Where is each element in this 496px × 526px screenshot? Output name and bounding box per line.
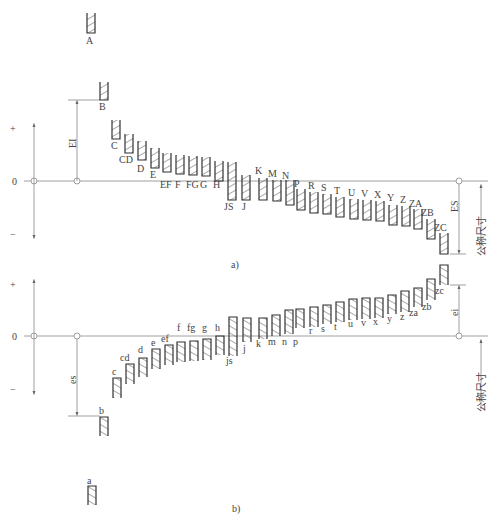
band-hatch	[125, 134, 133, 153]
band-label: ZB	[421, 207, 434, 218]
band-hatch	[203, 339, 211, 360]
tolerance-band-K: K	[255, 165, 267, 200]
nominal-size-label-a: 公称尺寸	[475, 216, 487, 256]
band-label: M	[268, 168, 277, 179]
band-hatch	[402, 206, 410, 226]
band-label: X	[374, 189, 382, 200]
tolerance-band-j: j	[242, 318, 251, 354]
tolerance-band-x: x	[373, 298, 383, 327]
tolerance-band-FG: FG	[186, 156, 199, 190]
band-label: S	[321, 182, 327, 193]
band-hatch	[414, 288, 422, 307]
tolerance-band-u: u	[348, 299, 357, 329]
band-hatch	[242, 175, 250, 200]
tolerance-band-E: E	[150, 148, 159, 180]
plus-sign-a: +	[10, 123, 16, 134]
band-hatch	[243, 318, 251, 342]
tolerance-band-A: A	[86, 13, 95, 46]
band-label: V	[361, 188, 369, 199]
band-hatch	[88, 486, 96, 505]
band-label: J	[242, 201, 246, 212]
band-hatch	[100, 82, 108, 100]
tolerance-band-cd: cd	[120, 352, 134, 384]
band-hatch	[215, 161, 223, 181]
band-label: m	[268, 336, 276, 347]
band-label: za	[409, 307, 418, 318]
tolerance-band-b: b	[99, 405, 108, 436]
plus-sign-b: +	[10, 279, 16, 290]
hole-tolerance-bands: ABCCDDEEFFFGGHJSJKMNPRSTUVXYZZAZBZC	[86, 13, 448, 254]
band-hatch	[375, 298, 383, 318]
tolerance-band-M: M	[268, 168, 281, 201]
band-label: P	[294, 178, 300, 189]
band-hatch	[259, 318, 267, 339]
band-label: U	[348, 187, 356, 198]
tolerance-band-V: V	[361, 188, 371, 220]
band-label: A	[86, 35, 94, 46]
band-label: k	[256, 338, 261, 349]
tolerance-band-D: D	[137, 141, 146, 174]
band-hatch	[349, 299, 357, 320]
minus-sign-b: −	[10, 384, 16, 395]
tolerance-band-B: B	[99, 82, 108, 112]
band-label: s	[321, 323, 325, 334]
tolerance-band-m: m	[268, 315, 280, 347]
caption-b: b)	[232, 503, 240, 515]
band-hatch	[272, 315, 280, 336]
tolerance-band-p: p	[293, 309, 304, 347]
band-label: EF	[160, 179, 172, 190]
tolerance-band-js: js	[225, 317, 237, 366]
tolerance-band-F: F	[175, 155, 184, 190]
band-label: f	[177, 322, 181, 333]
es-label-lower: es	[67, 376, 78, 384]
band-label: t	[334, 321, 337, 332]
band-hatch	[273, 180, 281, 201]
tolerance-band-S: S	[321, 182, 331, 214]
shaft-tolerance-bands: abccddeefffgghjsjkmnprstuvxyzzazbzc	[87, 265, 448, 505]
band-hatch	[259, 178, 267, 200]
band-hatch	[440, 265, 448, 285]
band-label: a	[87, 475, 92, 486]
band-label: FG	[186, 179, 199, 190]
tolerance-band-ef: ef	[161, 333, 173, 365]
band-hatch	[176, 155, 184, 174]
band-hatch	[297, 189, 305, 210]
band-hatch	[112, 120, 120, 139]
tolerance-band-d: d	[138, 344, 147, 377]
es-base-marker-b	[74, 333, 80, 339]
band-label: C	[111, 140, 118, 151]
band-hatch	[336, 197, 344, 217]
band-label: p	[293, 336, 298, 347]
band-label: Z	[400, 194, 406, 205]
band-hatch	[202, 157, 210, 176]
band-label: zc	[435, 285, 444, 296]
tolerance-band-h: h	[215, 322, 224, 355]
tolerance-band-ZB: ZB	[421, 207, 435, 239]
band-label: R	[308, 180, 315, 191]
part-a-holes: + 0 − EI ES 公称尺寸 ABCCDDEEFFFGGHJSJKMNPRS…	[10, 13, 488, 271]
tolerance-band-f: f	[177, 322, 185, 362]
band-hatch	[113, 378, 121, 398]
tolerance-band-s: s	[321, 305, 331, 334]
tolerance-band-R: R	[308, 180, 318, 213]
band-label: G	[200, 179, 207, 190]
band-hatch	[310, 307, 318, 327]
band-label: d	[138, 344, 143, 355]
band-label: fg	[187, 322, 195, 333]
tolerance-band-zb: zb	[422, 279, 435, 312]
tolerance-band-t: t	[334, 302, 344, 332]
band-hatch	[189, 156, 197, 175]
tolerance-band-H: H	[213, 161, 223, 190]
band-hatch	[310, 192, 318, 213]
band-label: zb	[422, 301, 431, 312]
tolerance-band-CD: CD	[119, 134, 133, 165]
band-label: c	[112, 366, 117, 377]
tolerance-band-G: G	[200, 157, 210, 190]
band-hatch	[177, 342, 185, 362]
band-label: K	[255, 165, 263, 176]
tolerance-band-N: N	[282, 170, 294, 205]
band-label: E	[150, 169, 156, 180]
nominal-size-label-b: 公称尺寸	[475, 372, 487, 412]
tolerance-band-za: za	[409, 288, 422, 318]
band-label: n	[282, 336, 287, 347]
